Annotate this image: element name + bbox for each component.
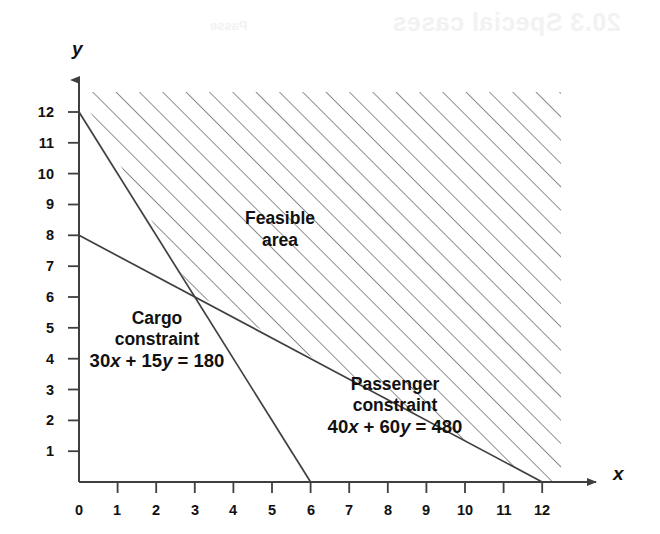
y-tick-label-12: 12: [28, 104, 54, 120]
x-tick-label-6: 6: [298, 502, 324, 518]
linear-programming-figure: 20.3 Special cases Passe: [0, 0, 660, 534]
passenger-eq-x: x: [348, 416, 358, 437]
x-tick-label-12: 12: [529, 502, 555, 518]
y-tick-label-1: 1: [28, 443, 54, 459]
x-tick-label-9: 9: [413, 502, 439, 518]
feasible-area-line2: area: [218, 229, 342, 251]
x-tick-label-1: 1: [104, 502, 130, 518]
cargo-constraint-line2: constraint: [76, 329, 238, 350]
x-tick-label-3: 3: [182, 502, 208, 518]
y-tick-label-5: 5: [28, 320, 54, 336]
passenger-constraint-equation: 40x + 60y = 480: [306, 416, 484, 437]
x-tick-label-4: 4: [220, 502, 246, 518]
y-tick-label-7: 7: [28, 258, 54, 274]
cargo-eq-b: + 15: [120, 350, 162, 371]
x-tick-label-0: 0: [66, 502, 92, 518]
x-tick-label-8: 8: [375, 502, 401, 518]
x-tick-label-2: 2: [143, 502, 169, 518]
x-tick-label-11: 11: [491, 502, 517, 518]
y-axis-ticks: [68, 112, 79, 451]
y-tick-label-11: 11: [28, 135, 54, 151]
y-tick-label-3: 3: [28, 382, 54, 398]
cargo-constraint-line1: Cargo: [76, 308, 238, 329]
passenger-constraint-line1: Passenger: [306, 374, 484, 395]
y-tick-label-8: 8: [28, 227, 54, 243]
cargo-eq-a: 30: [90, 350, 111, 371]
x-tick-label-5: 5: [259, 502, 285, 518]
passenger-constraint-line2: constraint: [306, 395, 484, 416]
passenger-eq-b: + 60: [358, 416, 400, 437]
x-tick-label-7: 7: [336, 502, 362, 518]
x-tick-label-10: 10: [452, 502, 478, 518]
y-tick-label-4: 4: [28, 351, 54, 367]
y-axis-label: y: [72, 38, 83, 60]
y-tick-label-6: 6: [28, 289, 54, 305]
y-tick-label-9: 9: [28, 196, 54, 212]
cargo-eq-x: x: [110, 350, 120, 371]
cargo-constraint-equation: 30x + 15y = 180: [76, 350, 238, 371]
cargo-eq-c: = 180: [172, 350, 224, 371]
y-tick-label-10: 10: [28, 166, 54, 182]
passenger-eq-y: y: [400, 416, 410, 437]
y-tick-label-2: 2: [28, 412, 54, 428]
plot-canvas: [0, 0, 660, 534]
x-axis-label: x: [613, 463, 624, 485]
feasible-area-label: Feasible area: [218, 207, 342, 251]
cargo-eq-y: y: [162, 350, 172, 371]
cargo-constraint-label: Cargo constraint 30x + 15y = 180: [76, 308, 238, 371]
feasible-area-line1: Feasible: [218, 207, 342, 229]
passenger-eq-c: = 480: [410, 416, 462, 437]
passenger-eq-a: 40: [328, 416, 349, 437]
passenger-constraint-label: Passenger constraint 40x + 60y = 480: [306, 374, 484, 437]
x-axis-ticks: [118, 482, 543, 493]
